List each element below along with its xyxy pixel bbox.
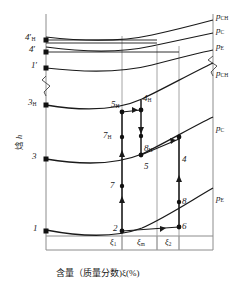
state-label-5: 5 [144,162,149,171]
p-e-top-sub: E [221,45,224,51]
vapour-isobar-curves [46,20,213,71]
xtick-label-xi2: ξ2 [165,238,171,247]
xtick-label-xi1: ξ1 [110,238,116,247]
state-point-markers [44,38,182,234]
arrow-right-5h-4h [132,107,138,113]
lbl-1-num: 1 [33,223,38,233]
isobar-label-p-e-bottom: pE [216,194,224,204]
xim-sub: m [141,241,145,247]
marker-3 [44,157,49,162]
lbl-8h-sub: H [149,147,153,153]
marker-4h [139,108,144,113]
curve-p-e-top [46,50,213,71]
marker-8 [177,200,181,204]
isobar-label-p-c-top: pC [216,26,224,36]
state-label-1: 1 [33,224,38,233]
lbl-2-num: 2 [113,223,118,233]
isobar-label-p-ch-top: pCH [216,12,228,22]
state-label-5h: 5H [111,100,120,110]
arrow-up-4-6-a [176,175,182,182]
enthalpy-concentration-diagram: pCH pC pE pCH pC pE 4′H 4′ 1′ 3H 3 1 5H … [0,0,244,287]
lbl-8-num: 8 [182,196,187,206]
state-label-8h: 8H [144,144,153,154]
p-c-top-sub: C [221,29,225,35]
p-e-bot-sub: E [221,197,224,203]
state-label-4: 4 [182,155,187,164]
p-ch-bot-sub: CH [221,72,229,78]
state-label-4hp: 4′H [25,33,36,43]
state-label-2: 2 [113,224,118,233]
curve-p-c-top [46,33,213,51]
lbl-3-num: 3 [32,151,37,161]
marker-5h [120,110,125,115]
lbl-7-num: 7 [110,180,115,190]
xtick-label-xim: ξm [137,238,145,247]
state-label-4h: 4H [143,94,152,104]
xi1-sub: 1 [114,241,117,247]
marker-1p [44,66,49,71]
state-label-7h: 7H [103,131,112,141]
curve-p-e-bot [46,188,213,235]
lbl-4-num: 4 [182,154,187,164]
y-axis-title-sym: h [14,135,24,139]
lbl-7h-sub: H [108,134,112,140]
state-label-8: 8 [182,197,187,206]
arrow-right-2-6 [160,226,166,232]
lbl-5-num: 5 [144,161,149,171]
lbl-4p-prime: ′ [34,44,36,54]
liquid-isobar-curves [46,63,213,235]
arrow-down-4h-5-a [138,127,144,134]
isobar-label-p-c-bottom: pC [216,124,224,134]
y-axis-title: 焓h [12,135,24,150]
state-label-6: 6 [182,222,187,231]
x-axis-title: 含量（质量分数)ξ(%) [56,266,140,279]
conn-5h-4h [122,110,141,112]
state-label-1p: 1′ [31,61,37,70]
lbl-5h-sub: H [116,103,120,109]
curve-p-ch-top [46,20,213,40]
lbl-3h-sub: H [33,101,37,107]
top-tie-lines [46,40,179,52]
diagram-canvas [0,0,244,287]
conn-2-6 [122,227,179,231]
state-label-4p: 4′ [29,45,35,54]
isobar-label-p-ch-bottom: pCH [216,69,228,79]
lbl-4h-sub: H [148,97,152,103]
marker-1 [44,229,49,234]
marker-6 [177,225,182,230]
marker-4 [177,135,182,140]
marker-3h [44,103,49,108]
curve-p-c-bot [46,117,213,163]
state-label-3: 3 [32,152,37,161]
p-c-bot-sub: C [221,127,225,133]
p-ch-top-sub: CH [221,15,229,21]
isobar-label-p-e-top: pE [216,42,224,52]
arrow-up-2-5h-b [119,196,125,203]
lbl-4hp-sub: H [31,36,35,42]
state-label-7: 7 [110,181,115,190]
arrow-up-2-5h-a [119,150,125,157]
marker-7 [120,184,124,188]
marker-8h [139,134,143,138]
marker-4p [44,50,49,55]
process-path-lines [122,100,179,230]
y-axis-title-cn: 焓 [14,141,24,150]
marker-2 [120,229,125,234]
xi2-sub: 2 [169,241,172,247]
lbl-1p-prime: ′ [36,60,38,70]
lbl-6-num: 6 [182,221,187,231]
state-label-3h: 3H [28,98,37,108]
marker-4hp [44,38,49,43]
marker-7h [120,135,124,139]
marker-5 [139,153,144,158]
